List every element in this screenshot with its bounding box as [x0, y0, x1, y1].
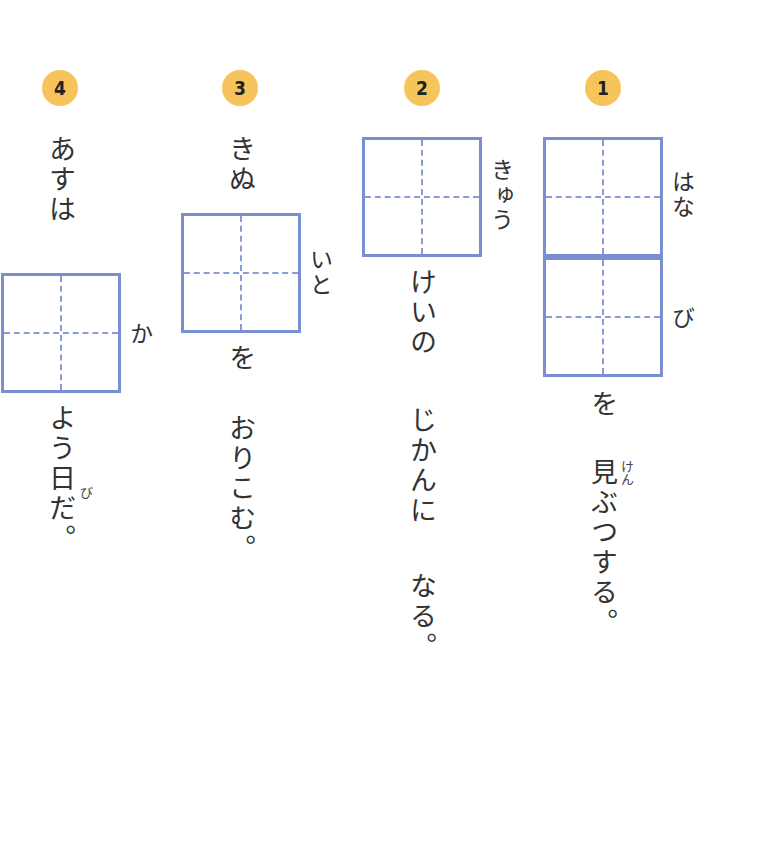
box-reading-3: いと	[306, 248, 334, 298]
problem-number-badge-3: 3	[222, 70, 258, 106]
sentence-2-rest-1: じかんに	[404, 406, 438, 526]
sentence-1-rest: 見ぶつする。	[585, 458, 619, 638]
problem-number-badge-4: 4	[42, 70, 78, 106]
guide-line-horizontal	[365, 196, 479, 198]
guide-line-horizontal	[546, 196, 660, 198]
guide-line-horizontal	[546, 316, 660, 318]
sentence-3-rest: おりこむ。	[223, 414, 257, 564]
answer-box-4[interactable]	[1, 273, 121, 393]
sentence-4-before-box: あすは	[43, 135, 77, 225]
sentence-3-after-box: を	[223, 344, 257, 374]
kanji-ruby-1: けん	[619, 460, 633, 486]
problem-number-badge-2: 2	[404, 70, 440, 106]
answer-box-2[interactable]	[362, 137, 482, 257]
answer-box-3[interactable]	[181, 213, 301, 333]
guide-line-horizontal	[184, 272, 298, 274]
sentence-1-after-box: を	[585, 390, 619, 420]
answer-box-1b[interactable]	[543, 257, 663, 377]
problem-number-badge-1: 1	[585, 70, 621, 106]
kanji-ruby-4: び	[80, 482, 93, 501]
sentence-2-rest-2: なる。	[404, 572, 438, 662]
sentence-2-after-box: けいの	[404, 268, 438, 358]
box-reading-1-top: はな	[668, 170, 696, 220]
answer-box-1a[interactable]	[543, 137, 663, 257]
sentence-4-after-box: よう日だ。	[43, 404, 77, 554]
guide-line-horizontal	[4, 332, 118, 334]
box-reading-2: きゅう	[487, 158, 515, 233]
box-reading-1-bottom: び	[668, 306, 696, 331]
sentence-3-before-box: きぬ	[223, 135, 257, 195]
box-reading-4: か	[126, 322, 154, 347]
